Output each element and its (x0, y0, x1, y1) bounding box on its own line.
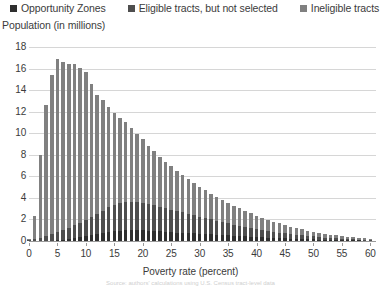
bar[interactable] (198, 187, 202, 241)
bar[interactable] (243, 211, 247, 241)
bar[interactable] (107, 107, 111, 241)
bar-segment (243, 227, 247, 236)
bar[interactable] (306, 231, 310, 241)
bar[interactable] (209, 194, 213, 241)
legend-item-ineligible-tracts[interactable]: Ineligible tracts (300, 2, 379, 14)
bar-segment (209, 194, 213, 219)
bar-segment (272, 222, 276, 232)
y-tick-label: 0 (2, 236, 26, 246)
bar-segment (61, 230, 65, 240)
bar[interactable] (147, 146, 151, 241)
bar[interactable] (158, 157, 162, 241)
bar[interactable] (317, 233, 321, 241)
bar[interactable] (67, 64, 71, 241)
bar-segment (107, 232, 111, 241)
square-marker-icon (300, 5, 307, 12)
x-tick (370, 243, 371, 246)
legend-item-eligible-not-selected[interactable]: Eligible tracts, but not selected (128, 2, 278, 14)
bar-segment (278, 223, 282, 232)
bar[interactable] (187, 179, 191, 241)
bar[interactable] (141, 139, 145, 241)
bar[interactable] (61, 62, 65, 241)
bar[interactable] (272, 222, 276, 241)
bar[interactable] (113, 113, 117, 241)
bar[interactable] (39, 155, 43, 241)
bar[interactable] (215, 197, 219, 241)
x-tick (86, 243, 87, 246)
bar[interactable] (135, 134, 139, 241)
bar[interactable] (95, 95, 99, 241)
bar-segment (39, 155, 43, 237)
bar[interactable] (260, 218, 264, 241)
bar[interactable] (283, 225, 287, 241)
bar[interactable] (181, 175, 185, 241)
bar[interactable] (169, 166, 173, 241)
bar-segment (101, 233, 105, 241)
bar-segment (187, 179, 191, 213)
legend-item-opportunity-zones[interactable]: Opportunity Zones (10, 2, 106, 14)
bar-segment (260, 230, 264, 237)
bar[interactable] (44, 105, 48, 241)
x-tick-label: 10 (74, 248, 98, 260)
bar[interactable] (33, 216, 37, 241)
bar-segment (56, 59, 60, 232)
x-tick (313, 243, 314, 246)
bar[interactable] (124, 122, 128, 241)
bar-segment (113, 205, 117, 231)
bar-segment (238, 226, 242, 236)
bar[interactable] (238, 208, 242, 241)
bar-segment (73, 225, 77, 238)
y-tick-label: 6 (2, 171, 26, 181)
bar[interactable] (255, 216, 259, 241)
bar-segment (289, 227, 293, 235)
legend-label: Opportunity Zones (21, 2, 106, 14)
bar[interactable] (312, 232, 316, 241)
bar[interactable] (90, 84, 94, 241)
bar[interactable] (289, 227, 293, 241)
bar-segment (192, 183, 196, 215)
bar[interactable] (204, 190, 208, 241)
bar[interactable] (300, 229, 304, 241)
x-tick (171, 243, 172, 246)
bar-segment (107, 107, 111, 207)
plot-area (29, 47, 376, 242)
bar-segment (101, 100, 105, 210)
bar[interactable] (78, 68, 82, 241)
bar-segment (181, 212, 185, 232)
bar-segment (130, 230, 134, 241)
bar[interactable] (56, 59, 60, 241)
legend-label: Ineligible tracts (311, 2, 379, 14)
bar[interactable] (323, 234, 327, 241)
bar[interactable] (249, 213, 253, 241)
x-axis-ticks (29, 243, 376, 247)
bar[interactable] (130, 128, 134, 241)
y-axis-title: Population (in millions) (2, 19, 105, 32)
bar[interactable] (50, 75, 54, 241)
bar[interactable] (175, 171, 179, 241)
bar-segment (107, 207, 111, 232)
bar[interactable] (295, 228, 299, 241)
bar[interactable] (164, 162, 168, 241)
bar[interactable] (221, 200, 225, 241)
bar[interactable] (226, 203, 230, 241)
bar[interactable] (278, 223, 282, 241)
bar[interactable] (101, 100, 105, 241)
bar[interactable] (73, 64, 77, 241)
bar[interactable] (152, 151, 156, 241)
bar[interactable] (192, 183, 196, 241)
x-axis-line (29, 241, 376, 242)
bar-segment (124, 230, 128, 241)
bar-segment (135, 230, 139, 241)
bar-segment (130, 202, 134, 230)
bar-segment (124, 122, 128, 202)
x-tick (57, 243, 58, 246)
bar-segment (113, 113, 117, 205)
bar[interactable] (232, 206, 236, 241)
bar[interactable] (118, 118, 122, 242)
legend-label: Eligible tracts, but not selected (139, 2, 278, 14)
bar[interactable] (84, 72, 88, 241)
x-tick (29, 243, 30, 246)
bar-segment (221, 222, 225, 235)
bar[interactable] (266, 220, 270, 241)
x-tick (114, 243, 115, 246)
